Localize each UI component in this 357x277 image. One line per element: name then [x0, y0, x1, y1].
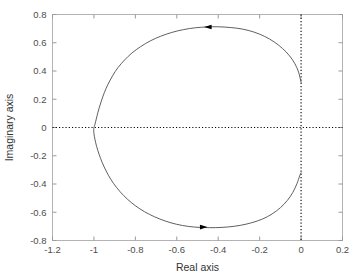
- direction-arrow-upper: [204, 25, 212, 30]
- axes-frame: [53, 15, 343, 241]
- x-tick-label: -1.2: [44, 244, 60, 255]
- y-axis-label: Imaginary axis: [3, 94, 15, 162]
- x-tick-label: -0.4: [210, 244, 226, 255]
- x-tick-label: -0.6: [169, 244, 185, 255]
- y-tick-label: -0.8: [30, 235, 46, 246]
- reference-lines: [53, 15, 343, 241]
- y-tick-label: 0.2: [33, 94, 46, 105]
- x-tick-labels: -1.2-1-0.8-0.6-0.4-0.200.2: [44, 244, 349, 255]
- y-tick-label: -0.2: [30, 150, 46, 161]
- y-tick-labels: -0.8-0.6-0.4-0.200.20.40.60.8: [30, 9, 46, 246]
- plot-canvas: -1.2-1-0.8-0.6-0.4-0.200.2 -0.8-0.6-0.4-…: [0, 0, 357, 277]
- y-tick-label: -0.6: [30, 207, 46, 218]
- x-tick-label: 0: [298, 244, 303, 255]
- y-tick-label: -0.4: [30, 178, 46, 189]
- nyquist-plot-figure: -1.2-1-0.8-0.6-0.4-0.200.2 -0.8-0.6-0.4-…: [0, 0, 357, 277]
- direction-arrow-lower: [200, 225, 208, 230]
- y-tick-label: 0.6: [33, 37, 46, 48]
- x-axis-label: Real axis: [176, 261, 219, 273]
- x-tick-marks: [53, 15, 343, 241]
- y-tick-label: 0: [41, 122, 46, 133]
- x-tick-label: -1: [90, 244, 98, 255]
- x-tick-label: -0.8: [127, 244, 143, 255]
- y-tick-label: 0.4: [33, 65, 46, 76]
- x-tick-label: 0.2: [336, 244, 349, 255]
- y-tick-label: 0.8: [33, 9, 46, 20]
- y-tick-marks: [53, 15, 343, 241]
- plot-frame: [53, 15, 343, 241]
- x-tick-label: -0.2: [251, 244, 267, 255]
